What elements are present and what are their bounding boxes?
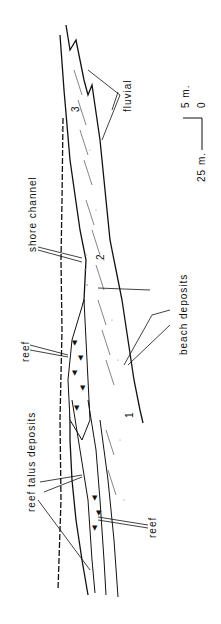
svg-text:▼: ▼ [80,384,86,392]
label-reef-talus: reef talus deposits [26,412,37,512]
label-reef-bottom: reef [147,517,158,538]
scale-bar [183,118,202,150]
svg-text:▼: ▼ [96,509,102,517]
label-beach-deposits: beach deposits [178,274,189,355]
svg-text:▼: ▼ [92,524,98,532]
label-reef-top: reef [20,341,31,362]
scale-horizontal: 25 m. [196,152,207,182]
svg-text:▼: ▼ [92,494,98,502]
scale-origin: 0 [196,101,207,108]
scale-vertical: 5 m. [180,85,191,108]
svg-text:▼: ▼ [74,404,80,412]
svg-text:▼: ▼ [72,339,78,347]
label-fluvial: fluvial [122,79,133,112]
label-shore-channel: shore channel [27,176,38,252]
label-unit-2: 2 [95,253,106,260]
label-unit-1: 1 [124,411,135,418]
svg-text:▼: ▼ [78,354,84,362]
svg-text:▼: ▼ [72,369,78,377]
surface-line [58,118,63,590]
label-unit-3: 3 [70,105,81,112]
